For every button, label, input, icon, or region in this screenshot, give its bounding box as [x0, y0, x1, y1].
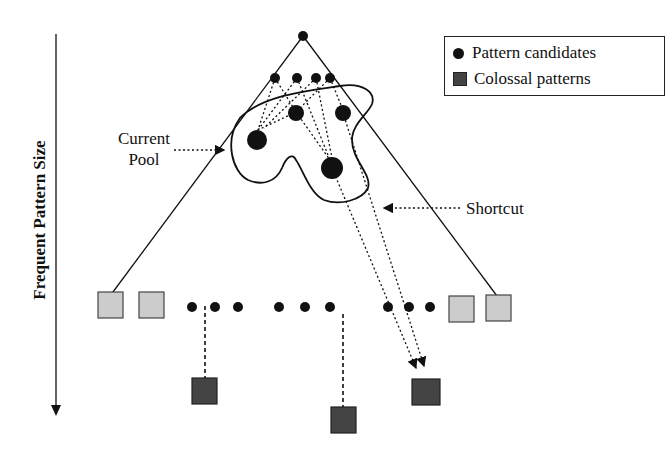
size-axis-arrow	[51, 34, 61, 416]
colossal-links	[205, 306, 343, 408]
current-pool-label: Current Pool	[112, 128, 176, 170]
legend-label: Colossal patterns	[474, 69, 591, 89]
diagram-canvas: Frequent Pattern Size Current Pool Short…	[0, 0, 672, 462]
current-pool-label-line2: Pool	[112, 149, 176, 170]
shortcut-label: Shortcut	[466, 198, 546, 219]
legend-label: Pattern candidates	[472, 43, 596, 63]
square-icon	[453, 72, 467, 86]
shortcut-arrows	[332, 116, 424, 368]
pattern-candidates	[187, 31, 435, 312]
circle-icon	[453, 48, 464, 59]
colossal-patterns	[192, 378, 440, 433]
legend: Pattern candidates Colossal patterns	[444, 36, 665, 96]
current-pool-label-line1: Current	[112, 128, 176, 149]
legend-item-colossal-patterns: Colossal patterns	[453, 68, 591, 90]
axis-label-frequent-pattern-size: Frequent Pattern Size	[30, 105, 50, 335]
legend-item-pattern-candidates: Pattern candidates	[453, 42, 596, 64]
